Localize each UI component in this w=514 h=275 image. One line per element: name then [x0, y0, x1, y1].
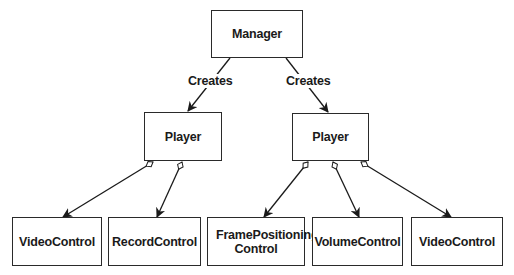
- player-node-left-label: Player: [165, 130, 201, 144]
- videocontrol-node-left: VideoControl: [12, 217, 102, 266]
- videocontrol-node-right-label: VideoControl: [419, 235, 495, 249]
- diagram-canvas: Creates Creates Manager Player Player Vi…: [0, 0, 514, 275]
- player-node-right-label: Player: [312, 130, 348, 144]
- aggregation-edge-videocontrol-left: [63, 162, 153, 217]
- videocontrol-node-left-label: VideoControl: [19, 235, 95, 249]
- aggregation-edge-framepositioning: [264, 162, 308, 217]
- framepositioning-node-label: FramePositioning Control: [216, 228, 296, 256]
- aggregation-edge-volumecontrol: [333, 162, 359, 217]
- recordcontrol-node: RecordControl: [108, 217, 201, 266]
- manager-node-label: Manager: [232, 27, 282, 41]
- recordcontrol-node-label: RecordControl: [112, 235, 197, 249]
- creates-label-left: Creates: [187, 74, 233, 88]
- aggregation-edge-videocontrol-right: [361, 162, 451, 217]
- player-node-left: Player: [144, 112, 222, 161]
- volumecontrol-node: VolumeControl: [312, 217, 403, 266]
- creates-label-right: Creates: [285, 74, 331, 88]
- aggregation-edge-recordcontrol: [157, 162, 182, 217]
- volumecontrol-node-label: VolumeControl: [314, 235, 400, 249]
- videocontrol-node-right: VideoControl: [411, 217, 503, 266]
- manager-node: Manager: [211, 10, 303, 58]
- player-node-right: Player: [292, 113, 369, 161]
- framepositioning-node: FramePositioning Control: [207, 217, 305, 266]
